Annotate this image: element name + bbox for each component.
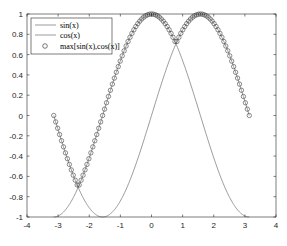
x-tick-label: 2 xyxy=(212,221,217,230)
x-tick-label: -1 xyxy=(117,221,125,230)
x-tick-label: 0 xyxy=(149,221,154,230)
y-tick-label: 0.6 xyxy=(12,51,24,60)
y-tick-label: 0.4 xyxy=(12,71,24,80)
x-tick-label: 4 xyxy=(274,221,279,230)
y-tick-label: -1 xyxy=(16,213,24,222)
chart: -4-3-2-10123410.80.60.40.20-0.2-0.4-0.6-… xyxy=(0,0,287,246)
y-tick-label: -0.4 xyxy=(9,152,23,161)
x-tick-label: 1 xyxy=(180,221,185,230)
legend-label-cos: cos(x) xyxy=(60,31,80,40)
x-tick-label: -2 xyxy=(86,221,94,230)
x-tick-label: -4 xyxy=(23,221,31,230)
x-tick-label: -3 xyxy=(55,221,63,230)
y-tick-label: 0.2 xyxy=(12,91,24,100)
y-tick-label: 0 xyxy=(19,112,24,121)
x-tick-label: 3 xyxy=(243,221,248,230)
y-tick-label: 1 xyxy=(19,10,24,19)
y-tick-label: -0.2 xyxy=(9,132,23,141)
legend-label-max: max[sin(x),cos(x)] xyxy=(60,42,120,51)
y-tick-label: -0.8 xyxy=(9,193,23,202)
y-tick-label: 0.8 xyxy=(12,30,24,39)
legend-label-sin: sin(x) xyxy=(60,21,79,30)
legend: sin(x) cos(x) max[sin(x),cos(x)] xyxy=(31,18,120,54)
y-tick-label: -0.6 xyxy=(9,172,23,181)
